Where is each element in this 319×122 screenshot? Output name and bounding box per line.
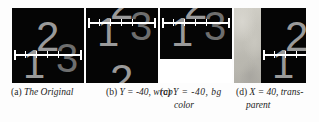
caption-b-tag: (b)	[106, 87, 117, 97]
caption-a-tag: (a)	[11, 87, 22, 97]
image-panel-a-original[interactable]: 1 2 3	[12, 8, 84, 83]
ruler-tick-minor-b-1	[99, 19, 100, 26]
digit-three-b-wrapped: 3	[130, 81, 152, 83]
panel-b-content: 1 2 3	[86, 8, 158, 51]
caption-row: (a) The Original (b) Y = -40, wrap (c) Y…	[0, 86, 319, 122]
panel-c-content: 1 2 3	[160, 8, 232, 51]
panel-d-canvas: 1 2 3	[234, 8, 306, 83]
ruler-tick-minor-a-1	[25, 51, 26, 58]
ruler-tick-major-a-0	[14, 50, 16, 60]
figure-image-offset-examples: 1 2 3	[0, 0, 319, 122]
caption-c-line2: color	[160, 99, 238, 112]
ruler-d	[263, 48, 306, 62]
caption-c-body: Y = -40, bg	[173, 87, 222, 97]
ruler-tick-minor-a-2	[36, 51, 37, 58]
ruler-tick-major-a-5	[80, 50, 82, 60]
caption-d-body: X = 40, trans-	[249, 87, 303, 97]
image-panel-c-bg-color[interactable]: 1 2 3	[160, 8, 232, 83]
ruler-tick-minor-b-4	[132, 19, 133, 26]
panel-d-content: 1 2 3	[261, 8, 306, 83]
ruler-b	[88, 16, 156, 30]
ruler-tick-minor-c-2	[184, 19, 185, 26]
caption-d-line2: parent	[236, 99, 316, 112]
ruler-tick-major-c-5	[228, 18, 230, 28]
ruler-tick-minor-c-4	[206, 19, 207, 26]
ruler-tick-minor-a-3	[47, 51, 48, 58]
caption-a-body: The Original	[24, 87, 73, 97]
ruler-tick-minor-b-2	[110, 19, 111, 26]
panel-b-content-wrapped: 1 2 3	[86, 51, 158, 83]
ruler-tick-minor-d-2	[285, 51, 286, 58]
ruler-c	[162, 16, 230, 30]
ruler-a	[14, 48, 82, 62]
panel-a-canvas: 1 2 3	[12, 8, 84, 83]
ruler-tick-major-c-0	[162, 18, 164, 28]
panel-row: 1 2 3	[0, 0, 319, 86]
ruler-tick-major-d-0	[263, 50, 265, 60]
caption-d-tag: (d)	[236, 87, 247, 97]
ruler-tick-major-b-0	[88, 18, 90, 28]
caption-d: (d) X = 40, trans- parent	[236, 86, 316, 112]
caption-a: (a) The Original	[11, 86, 109, 99]
panel-c-bg-color-fill	[160, 59, 232, 83]
panel-c-canvas: 1 2 3	[160, 8, 232, 83]
ruler-tick-minor-c-3	[195, 19, 196, 26]
panel-b-canvas: 1 2 3 1 2	[86, 8, 158, 83]
ruler-tick-minor-c-1	[173, 19, 174, 26]
caption-c: (c) Y = -40, bg color	[160, 86, 238, 112]
ruler-tick-minor-d-3	[296, 51, 297, 58]
ruler-tick-minor-b-3	[121, 19, 122, 26]
panel-d-transparency-checkerboard	[234, 8, 261, 83]
caption-c-tag: (c)	[160, 87, 171, 97]
ruler-tick-minor-d-1	[274, 51, 275, 58]
ruler-tick-minor-a-4	[58, 51, 59, 58]
image-panel-d-transparent[interactable]: 1 2 3	[234, 8, 306, 83]
panel-a-content: 1 2 3	[12, 8, 84, 83]
ruler-tick-major-b-5	[154, 18, 156, 28]
image-panel-b-wrap[interactable]: 1 2 3 1 2	[86, 8, 158, 83]
